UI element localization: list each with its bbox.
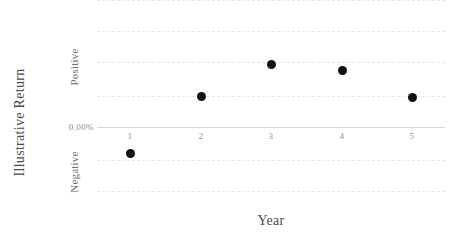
plot-area [97,0,445,196]
x-axis-title: Year [97,213,445,229]
gridline [97,31,445,32]
gridline [97,96,445,97]
data-point[interactable] [197,92,206,101]
x-tick-label: 5 [397,131,427,141]
gridline [97,0,445,1]
y-axis-title: Illustrative Return [0,0,40,245]
chart-canvas: Illustrative Return Positive 0.00% Negat… [0,0,474,245]
zero-axis-line [97,127,445,128]
data-point[interactable] [408,93,417,102]
y-tick-label-positive: Positive [65,37,83,97]
gridline [97,160,445,161]
data-point[interactable] [338,66,347,75]
y-tick-label-negative: Negative [65,142,83,202]
x-tick-label: 2 [186,131,216,141]
x-tick-label: 1 [115,131,145,141]
data-point[interactable] [126,149,135,158]
x-tick-label: 3 [256,131,286,141]
gridline [97,191,445,192]
data-point[interactable] [267,60,276,69]
x-tick-label: 4 [327,131,357,141]
y-tick-label-zero: 0.00% [50,120,94,134]
